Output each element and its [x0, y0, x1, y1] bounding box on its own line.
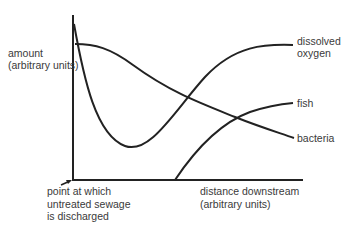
- x-axis-label: distance downstream (arbitrary units): [200, 185, 299, 210]
- x-axis-label-line1: distance downstream: [200, 185, 299, 198]
- y-axis-label: amount (arbitrary units): [8, 47, 79, 71]
- origin-annotation-line2: untreated sewage: [47, 198, 130, 211]
- oxygen-label-line2: oxygen: [297, 47, 341, 59]
- y-axis-label-line1: amount: [8, 47, 79, 59]
- x-axis-label-line2: (arbitrary units): [200, 198, 299, 211]
- origin-annotation: point at which untreated sewage is disch…: [47, 185, 130, 223]
- oxygen-label-line1: dissolved: [297, 35, 341, 47]
- origin-annotation-line3: is discharged: [47, 210, 130, 223]
- origin-annotation-line1: point at which: [47, 185, 130, 198]
- bacteria-curve: [75, 44, 294, 138]
- fish-label: fish: [297, 97, 313, 109]
- dissolved-oxygen-curve: [74, 24, 293, 147]
- bacteria-label: bacteria: [297, 132, 334, 144]
- dissolved-oxygen-label: dissolved oxygen: [297, 35, 341, 59]
- y-axis-label-line2: (arbitrary units): [8, 59, 79, 71]
- fish-curve: [175, 103, 293, 180]
